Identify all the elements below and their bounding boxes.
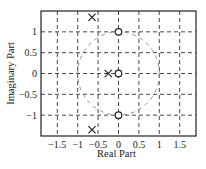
y-tick-label: 0.5 xyxy=(25,47,38,58)
x-tick-label: −1.5 xyxy=(48,139,66,150)
x-tick-label: 1 xyxy=(157,139,162,150)
pole-zero-plot: −1.5−1−0.500.511.5 10.50−0.5−1 Real Part… xyxy=(0,0,206,169)
y-axis-label: Imaginary Part xyxy=(5,42,16,105)
pole-marker-x-icon xyxy=(88,126,95,133)
y-tick-label: 0 xyxy=(32,68,37,79)
pole-marker-x-icon xyxy=(88,14,95,21)
zero-marker-o-icon xyxy=(115,70,122,77)
x-tick-label: 1.5 xyxy=(173,139,186,150)
y-tick-labels: 10.50−0.5−1 xyxy=(19,26,37,120)
x-tick-label: −1 xyxy=(72,139,83,150)
x-axis-label: Real Part xyxy=(97,148,136,159)
y-tick-label: −0.5 xyxy=(19,89,37,100)
zero-marker-o-icon xyxy=(115,29,122,36)
y-tick-label: −1 xyxy=(26,110,37,121)
y-tick-label: 1 xyxy=(32,26,37,37)
zero-marker-o-icon xyxy=(115,112,122,119)
